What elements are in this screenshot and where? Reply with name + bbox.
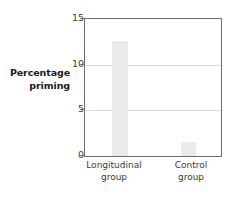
- bar-control-group: [181, 142, 196, 156]
- gridline-10: [85, 65, 221, 66]
- x-tick-label-longitudinal-group-line-1: Longitudinal: [79, 160, 149, 172]
- x-tick-label-longitudinal-group-line-2: group: [79, 172, 149, 184]
- gridline-5: [85, 110, 221, 111]
- x-tick-label-control-group: Control group: [156, 160, 226, 183]
- x-tick-label-longitudinal-group: Longitudinal group: [79, 160, 149, 183]
- x-axis: Longitudinal group Control group: [84, 160, 222, 196]
- x-tick-label-control-group-line-2: group: [156, 172, 226, 184]
- y-axis: 15 10 5 0: [52, 18, 84, 157]
- x-tick-label-control-group-line-1: Control: [156, 160, 226, 172]
- bar-chart-figure: Percentage priming 15 10 5 0 Longitudina…: [0, 0, 239, 200]
- bar-longitudinal-group: [112, 41, 128, 156]
- plot-area: [84, 18, 222, 157]
